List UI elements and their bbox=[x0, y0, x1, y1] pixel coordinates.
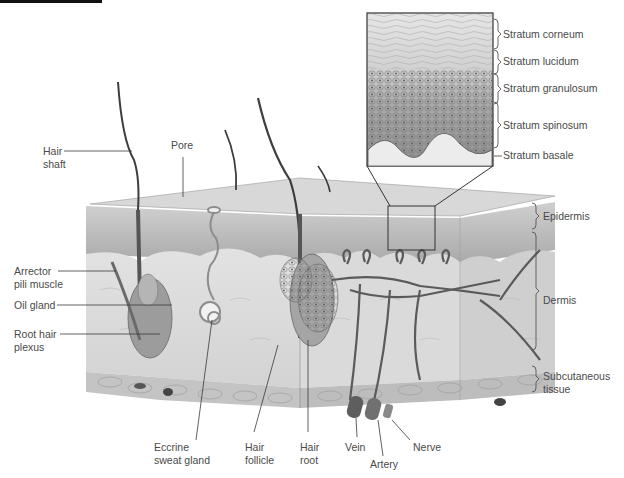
label-artery: Artery bbox=[370, 458, 398, 471]
label-vein: Vein bbox=[345, 441, 365, 454]
label-hair-root-line2: root bbox=[300, 454, 318, 467]
skin-cross-section-illustration bbox=[0, 0, 624, 478]
label-root-hair-plexus-line1: Root hair bbox=[14, 328, 57, 341]
label-hair-root-line1: Hair bbox=[300, 441, 319, 454]
label-eccrine-line2: sweat gland bbox=[154, 454, 210, 467]
inset-braces bbox=[494, 19, 502, 156]
label-eccrine-line1: Eccrine bbox=[154, 441, 189, 454]
label-subcutaneous-line2: tissue bbox=[543, 383, 570, 396]
label-oil-gland: Oil gland bbox=[14, 299, 55, 312]
label-pore: Pore bbox=[171, 139, 193, 152]
label-hair-follicle-line1: Hair bbox=[245, 441, 264, 454]
label-stratum-basale: Stratum basale bbox=[503, 149, 574, 162]
label-hair-shaft-line2: shaft bbox=[43, 158, 66, 171]
label-nerve: Nerve bbox=[413, 441, 441, 454]
label-epidermis: Epidermis bbox=[543, 210, 590, 223]
label-root-hair-plexus-line2: plexus bbox=[14, 341, 44, 354]
label-stratum-lucidum: Stratum lucidum bbox=[503, 55, 579, 68]
label-arrector-line1: Arrector bbox=[14, 265, 51, 278]
label-hair-shaft-line1: Hair bbox=[43, 145, 62, 158]
label-dermis: Dermis bbox=[543, 294, 576, 307]
label-arrector-line2: pili muscle bbox=[14, 278, 63, 291]
label-subcutaneous-line1: Subcutaneous bbox=[543, 370, 610, 383]
label-stratum-spinosum: Stratum spinosum bbox=[503, 119, 588, 132]
label-stratum-granulosum: Stratum granulosum bbox=[503, 82, 598, 95]
label-hair-follicle-line2: follicle bbox=[245, 454, 274, 467]
label-stratum-corneum: Stratum corneum bbox=[503, 28, 584, 41]
